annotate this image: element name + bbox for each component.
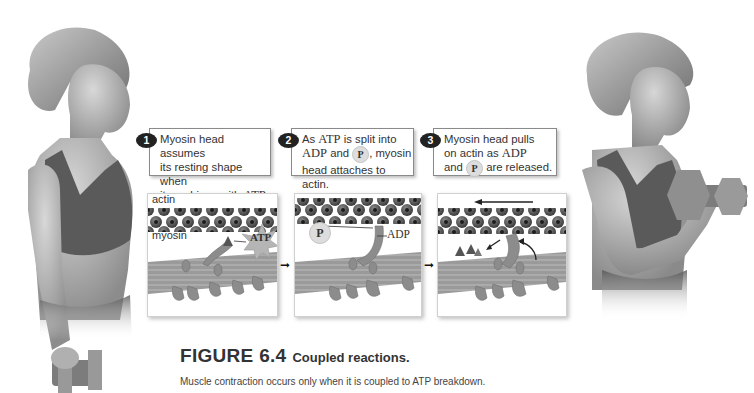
myosin-filament bbox=[295, 252, 421, 294]
atp-marker bbox=[223, 236, 233, 246]
figure-caption-description: Muscle contraction occurs only when it i… bbox=[180, 376, 485, 387]
step-3-box: 3 Myosin head pulls on actin as ADP and … bbox=[433, 128, 557, 176]
step-3-badge: 3 bbox=[420, 133, 441, 148]
actin-filament bbox=[295, 198, 421, 224]
step-arrow-1: ➞ bbox=[280, 258, 290, 272]
figure-title: Coupled reactions. bbox=[292, 350, 409, 365]
phosphate-icon: P bbox=[466, 160, 483, 177]
diagram-panel-2: P ADP bbox=[294, 193, 422, 317]
actin-myosin-power-stroke-diagram bbox=[438, 194, 566, 316]
step-2-text: As ATP is split into ADP and P, myosin h… bbox=[302, 132, 413, 191]
adp-label: ADP bbox=[387, 228, 410, 240]
step-3-text: Myosin head pulls on actin as ADP and P … bbox=[444, 132, 552, 177]
step-1-text: Myosin head assumes its resting shape wh… bbox=[160, 132, 270, 202]
figure-label: FIGURE 6.4 bbox=[180, 345, 286, 366]
atp-label: ATP bbox=[250, 231, 271, 243]
figure-caption-title: FIGURE 6.4Coupled reactions. bbox=[180, 345, 410, 367]
woman-arm-flexed-illustration bbox=[582, 20, 754, 350]
phosphate-icon: P bbox=[352, 146, 369, 163]
step-2-badge: 2 bbox=[278, 133, 299, 148]
myosin-label: myosin bbox=[152, 229, 187, 241]
step-arrow-2: ➞ bbox=[424, 258, 434, 272]
actin-filament bbox=[438, 208, 566, 234]
diagram-panel-3 bbox=[437, 193, 567, 317]
diagram-panel-1: actin myosin ATP bbox=[147, 193, 278, 317]
phosphate-icon: P bbox=[309, 222, 331, 244]
step-1-box: 1 Myosin head assumes its resting shape … bbox=[149, 128, 271, 176]
actin-label: actin bbox=[152, 193, 175, 205]
step-1-badge: 1 bbox=[136, 133, 157, 148]
actin-myosin-resting-diagram bbox=[148, 194, 277, 316]
woman-arm-relaxed-illustration bbox=[0, 20, 145, 393]
actin-myosin-attached-diagram bbox=[295, 194, 421, 316]
step-2-box: 2 As ATP is split into ADP and P, myosin… bbox=[291, 128, 414, 176]
